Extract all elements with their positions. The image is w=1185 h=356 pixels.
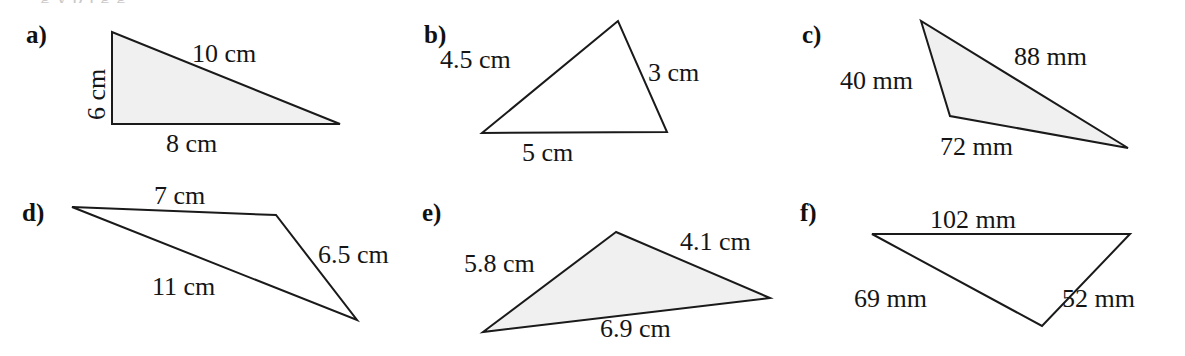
label-f-side-top: 102 mm (930, 207, 1016, 233)
label-f-side-left: 69 mm (854, 286, 927, 312)
triangle-f-figure (0, 0, 1185, 356)
label-f-side-right: 52 mm (1062, 286, 1135, 312)
worksheet-page: g y p j g g a) 6 cm 10 cm 8 cm b) 4.5 cm… (0, 0, 1185, 356)
